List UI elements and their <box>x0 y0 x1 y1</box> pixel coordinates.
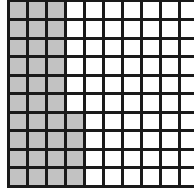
hundred-grid <box>0 0 194 194</box>
grid-cell <box>178 166 194 188</box>
